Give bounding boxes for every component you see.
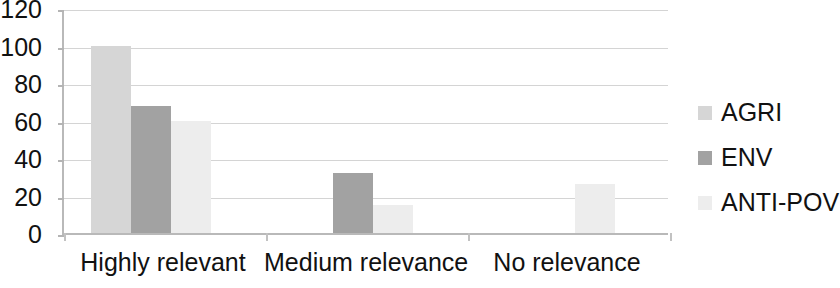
axis-tick	[58, 198, 64, 200]
legend-item: ANTI-POV	[698, 180, 840, 225]
bar	[91, 46, 131, 234]
bar	[171, 121, 211, 234]
x-axis-category-label: Highly relevant	[62, 248, 264, 276]
bar-chart: 020406080100120 Highly relevantMedium re…	[0, 0, 840, 288]
bar	[575, 184, 615, 233]
chart-legend: AGRIENVANTI-POV	[698, 90, 840, 225]
y-axis-tick-label: 60	[0, 110, 52, 135]
legend-label: ENV	[721, 145, 772, 170]
bar	[373, 205, 413, 233]
legend-swatch-icon	[698, 196, 712, 210]
category-tick	[64, 233, 66, 241]
y-axis-tick-label: 100	[0, 35, 52, 60]
axis-tick	[58, 48, 64, 50]
axis-tick	[58, 123, 64, 125]
axis-tick	[58, 10, 64, 12]
category-tick	[266, 233, 268, 241]
bar	[131, 106, 171, 234]
legend-swatch-icon	[698, 151, 712, 165]
legend-label: AGRI	[721, 100, 782, 125]
legend-swatch-icon	[698, 106, 712, 120]
gridline	[64, 85, 668, 86]
axis-tick	[58, 85, 64, 87]
y-axis-tick-label: 120	[0, 0, 52, 22]
y-axis-tick-label: 40	[0, 147, 52, 172]
category-tick	[468, 233, 470, 241]
axis-tick	[58, 160, 64, 162]
y-axis-tick-label: 20	[0, 185, 52, 210]
legend-item: AGRI	[698, 90, 840, 135]
y-axis-tick-label: 0	[0, 222, 52, 247]
x-axis-category-label: Medium relevance	[264, 248, 466, 276]
plot-area	[62, 10, 668, 235]
gridline	[64, 48, 668, 49]
legend-item: ENV	[698, 135, 840, 180]
y-axis-tick-labels: 020406080100120	[0, 0, 52, 240]
legend-label: ANTI-POV	[721, 190, 839, 215]
bar	[333, 173, 373, 233]
x-axis-category-label: No relevance	[466, 248, 668, 276]
category-tick	[670, 233, 672, 241]
gridline	[64, 10, 668, 11]
y-axis-tick-label: 80	[0, 72, 52, 97]
